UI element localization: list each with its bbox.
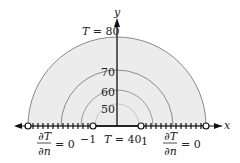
point-outer-right xyxy=(203,123,209,129)
isotherm-80-label: T = 80 xyxy=(82,25,120,38)
svg-text:= 0: = 0 xyxy=(181,138,201,151)
heat-diagram: y x T = 80 70 60 50 −1 1 T = 40 ∂T ∂n = … xyxy=(0,0,240,163)
point-minus-one xyxy=(90,123,96,129)
right-bc-label: ∂T ∂n = 0 xyxy=(163,130,201,158)
svg-text:∂n: ∂n xyxy=(164,145,177,158)
isotherm-60-label: 60 xyxy=(101,86,115,99)
left-bc-label: ∂T ∂n = 0 xyxy=(37,130,75,158)
x-axis-arrow-right xyxy=(214,123,222,129)
x-axis-arrow-left xyxy=(14,123,22,129)
center-bc-label: T = 40 xyxy=(104,133,142,146)
tick-minus-one: −1 xyxy=(80,133,96,146)
svg-text:∂n: ∂n xyxy=(38,145,51,158)
isotherm-70-label: 70 xyxy=(101,66,115,79)
point-outer-left xyxy=(25,123,31,129)
x-axis-label: x xyxy=(224,119,231,132)
isotherm-50-label: 50 xyxy=(101,103,115,116)
point-one xyxy=(138,123,144,129)
y-axis-label: y xyxy=(113,6,121,19)
svg-text:= 0: = 0 xyxy=(55,138,75,151)
tick-one: 1 xyxy=(141,135,148,148)
svg-text:∂T: ∂T xyxy=(38,130,53,143)
svg-text:∂T: ∂T xyxy=(164,130,179,143)
